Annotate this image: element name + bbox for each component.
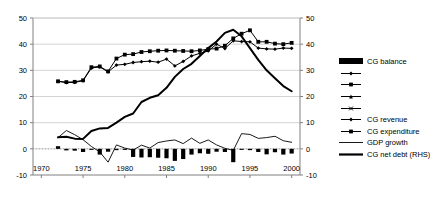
svg-text:1995: 1995 bbox=[242, 164, 259, 173]
legend-cross-icon bbox=[338, 103, 364, 114]
legend-item: CG revenue bbox=[338, 114, 429, 126]
svg-text:30: 30 bbox=[306, 66, 314, 75]
legend-item-label: CG net debt (RHS) bbox=[364, 150, 430, 159]
svg-text:10: 10 bbox=[19, 118, 27, 127]
svg-text:1980: 1980 bbox=[116, 164, 133, 173]
legend-item-label: CG expenditure bbox=[364, 127, 420, 136]
svg-text:40: 40 bbox=[306, 40, 314, 49]
legend-item: GDP growth bbox=[338, 137, 429, 149]
svg-text:20: 20 bbox=[306, 92, 314, 101]
svg-text:20: 20 bbox=[19, 92, 27, 101]
legend-thick-line-icon bbox=[338, 149, 364, 160]
legend-item bbox=[338, 79, 429, 91]
svg-text:50: 50 bbox=[306, 14, 314, 23]
svg-text:1970: 1970 bbox=[33, 164, 50, 173]
svg-text:10: 10 bbox=[306, 118, 314, 127]
chart-legend: CG balanceCG revenueCG expenditureGDP gr… bbox=[338, 56, 429, 160]
svg-text:-10: -10 bbox=[16, 171, 27, 180]
legend-diamond-icon bbox=[338, 68, 364, 79]
svg-text:1975: 1975 bbox=[75, 164, 92, 173]
series-lines bbox=[56, 28, 293, 162]
svg-text:40: 40 bbox=[19, 40, 27, 49]
svg-text:1990: 1990 bbox=[200, 164, 217, 173]
legend-square-icon bbox=[338, 126, 364, 137]
legend-thin-line-icon bbox=[338, 137, 364, 148]
svg-text:0: 0 bbox=[306, 145, 310, 154]
legend-item-label: GDP growth bbox=[364, 138, 408, 147]
legend-item bbox=[338, 68, 429, 80]
legend-item: CG net debt (RHS) bbox=[338, 149, 429, 161]
legend-item-label: CG revenue bbox=[364, 115, 407, 124]
legend-bar-icon bbox=[338, 56, 364, 67]
legend-diamond-icon bbox=[338, 114, 364, 125]
svg-text:2000: 2000 bbox=[283, 164, 300, 173]
legend-triangle-icon bbox=[338, 91, 364, 102]
svg-text:50: 50 bbox=[19, 14, 27, 23]
legend-item: CG expenditure bbox=[338, 126, 429, 138]
legend-item: CG balance bbox=[338, 56, 429, 68]
svg-text:1985: 1985 bbox=[158, 164, 175, 173]
svg-text:30: 30 bbox=[19, 66, 27, 75]
legend-item-label: CG balance bbox=[364, 57, 407, 66]
legend-item bbox=[338, 102, 429, 114]
legend-square-icon bbox=[338, 79, 364, 90]
legend-item bbox=[338, 91, 429, 103]
svg-text:-10: -10 bbox=[306, 171, 317, 180]
svg-text:0: 0 bbox=[23, 145, 27, 154]
